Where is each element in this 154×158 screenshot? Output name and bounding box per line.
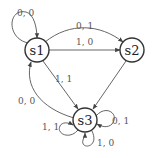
node-label-s1: s1 xyxy=(30,43,45,58)
edge-label-s1-s2-straight: 1, 0 xyxy=(76,37,93,47)
node-label-s2: s2 xyxy=(125,43,140,58)
edge-label-s3-s3-bottom: 1, 0 xyxy=(97,138,114,148)
edge-s1-s3 xyxy=(43,61,78,109)
edge-label-s1-s2-curved: 0, 1 xyxy=(76,21,93,31)
edge-s3-s3-bottom xyxy=(83,131,94,146)
state-diagram: 0, 0 0, 1 1, 0 1, 1 0, 0 0, 1 1, 1 1, 0 … xyxy=(0,0,154,158)
node-s3: s3 xyxy=(73,108,97,132)
edge-label-s1-s3: 1, 1 xyxy=(55,74,72,84)
edge-label-s3-s3-left: 1, 1 xyxy=(42,122,59,132)
edge-s2-s3 xyxy=(93,61,126,109)
edge-label-s1-s1: 0, 0 xyxy=(17,8,34,18)
node-label-s3: s3 xyxy=(78,113,93,128)
node-s2: s2 xyxy=(120,38,144,62)
edge-label-s3-s3-right: 0, 1 xyxy=(112,116,129,126)
edge-label-s3-s1: 0, 0 xyxy=(18,96,35,106)
edge-s3-s1 xyxy=(29,62,74,118)
node-s1: s1 xyxy=(25,38,49,62)
